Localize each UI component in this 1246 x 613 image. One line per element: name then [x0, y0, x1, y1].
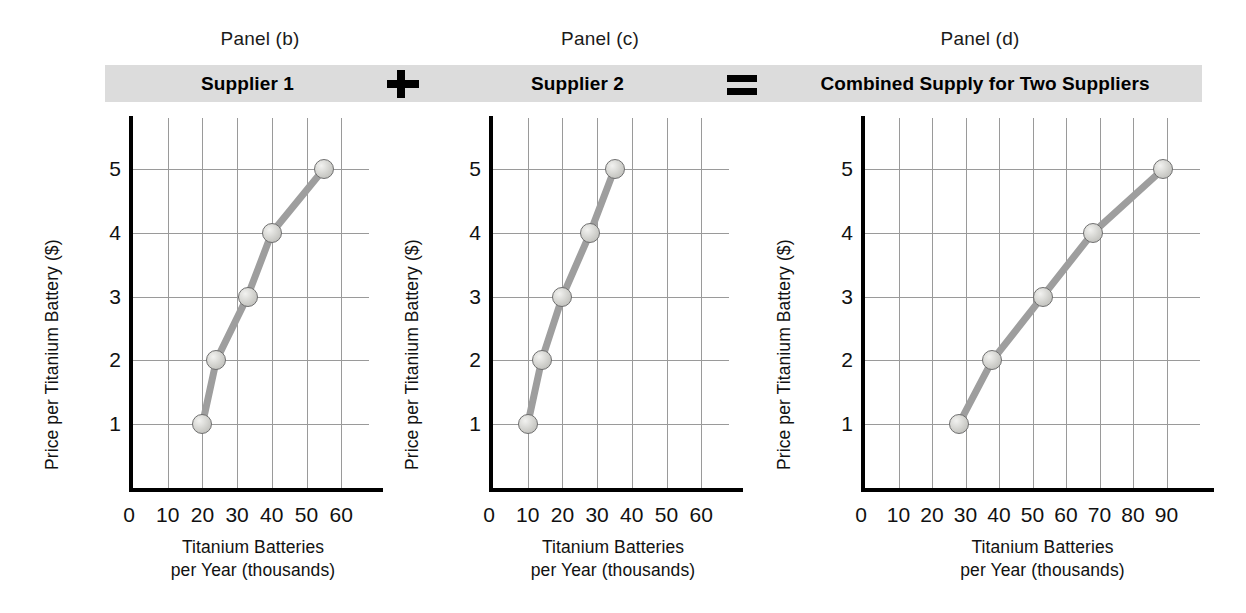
supply-curve: [0, 0, 1246, 613]
data-point-marker: [949, 414, 969, 434]
chart-panel-3: 123450102030405060708090Price per Titani…: [0, 0, 1246, 613]
data-point-marker: [1083, 223, 1103, 243]
data-point-marker: [1033, 287, 1053, 307]
figure-root: Panel (b) Panel (c) Panel (d) Supplier 1…: [0, 0, 1246, 613]
